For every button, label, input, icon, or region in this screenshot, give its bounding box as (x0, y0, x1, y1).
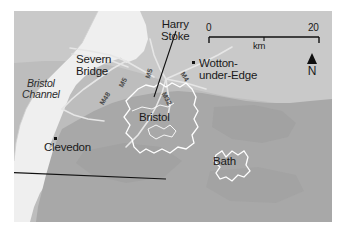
north-arrow-icon (307, 53, 317, 64)
label-bath[interactable]: Bath (213, 156, 236, 168)
label-bristol[interactable]: Bristol (139, 112, 170, 124)
north-arrow: N (300, 53, 324, 77)
marker-clevedon[interactable] (54, 137, 57, 140)
label-severn-bridge[interactable]: Severn Bridge (76, 53, 111, 77)
label-severn-bridge-line1: Severn (76, 53, 111, 65)
scale-bar: 0 20 km (207, 24, 321, 52)
label-bristol-channel: Bristol Channel (22, 78, 60, 100)
scale-bar-units-label: km (253, 41, 265, 51)
label-harry-stoke[interactable]: Harry Stoke (161, 18, 189, 42)
map-page: 0 20 km N Harry Stoke Wotton- under-Edge… (0, 0, 345, 236)
scale-bar-min-label: 0 (206, 23, 211, 33)
label-harry-stoke-line1: Harry (161, 18, 189, 30)
marker-wotton-under-edge[interactable] (192, 61, 195, 64)
scale-bar-max-label: 20 (308, 23, 319, 33)
label-severn-bridge-line2: Bridge (76, 65, 111, 77)
north-arrow-label: N (300, 65, 324, 77)
label-harry-stoke-line2: Stoke (161, 30, 189, 42)
label-wotton-under-edge[interactable]: Wotton- under-Edge (199, 57, 257, 81)
label-clevedon[interactable]: Clevedon (44, 142, 91, 154)
map-canvas[interactable]: 0 20 km N Harry Stoke Wotton- under-Edge… (14, 11, 332, 222)
label-bristol-channel-line2: Channel (22, 89, 60, 100)
label-wotton-line2: under-Edge (199, 69, 257, 81)
label-wotton-line1: Wotton- (199, 57, 257, 69)
